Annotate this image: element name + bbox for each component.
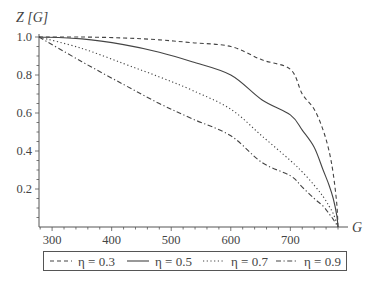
legend-label: η = 0.7 [231,254,268,269]
y-tick-label: 1.0 [16,30,32,44]
x-tick-label: 300 [43,233,62,247]
y-tick-label: 0.2 [16,182,32,196]
legend-label: η = 0.9 [304,254,341,269]
legend-label: η = 0.5 [155,254,192,269]
series-line-1 [39,37,338,227]
y-axis-title: Z [G] [16,10,48,25]
x-tick-label: 400 [102,233,121,247]
y-tick-label: 0.6 [16,106,32,120]
x-tick-label: 500 [162,233,181,247]
x-axis-title: G [352,220,362,235]
series-line-4 [39,37,338,227]
y-tick-label: 0.8 [16,68,32,82]
legend-label: η = 0.3 [78,254,115,269]
x-tick-label: 600 [221,233,240,247]
legend: η = 0.3η = 0.5η = 0.7η = 0.9 [44,252,347,271]
plot-area [39,37,338,227]
series-line-3 [39,37,338,227]
chart: 3004005006007000.20.40.60.81.0 Z [G] G η… [0,0,371,288]
y-tick-label: 0.4 [16,144,32,158]
x-tick-label: 700 [281,233,300,247]
axes: 3004005006007000.20.40.60.81.0 [16,30,348,247]
series-line-2 [39,37,338,227]
